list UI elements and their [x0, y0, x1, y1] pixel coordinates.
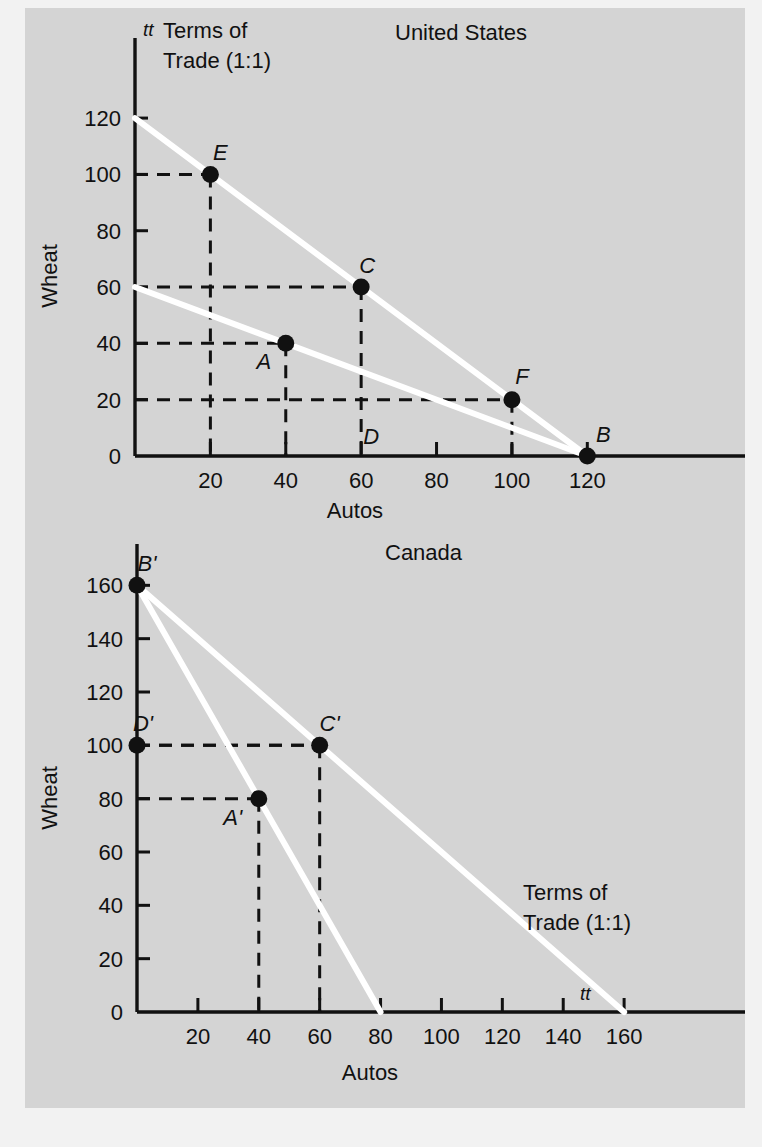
x-tick-label-united-states-100: 100	[494, 468, 531, 493]
y-tick-label-canada-20: 20	[99, 947, 123, 972]
chart-title-united-states: United States	[395, 20, 527, 45]
tt-label-united-states: tt	[143, 19, 154, 40]
datapoint-united-states-C	[353, 279, 370, 296]
x-tick-label-canada-40: 40	[247, 1024, 271, 1049]
y-tick-label-united-states-40: 40	[97, 331, 121, 356]
x-tick-label-united-states-80: 80	[424, 468, 448, 493]
x-tick-label-canada-20: 20	[186, 1024, 210, 1049]
y-axis-label-canada: Wheat	[37, 766, 62, 830]
terms-of-trade-line1-canada: Terms of	[523, 880, 608, 905]
chart-title-canada: Canada	[385, 540, 463, 565]
y-tick-label-canada-140: 140	[86, 627, 123, 652]
datapoint-canada-D'	[129, 737, 146, 754]
x-tick-label-canada-140: 140	[545, 1024, 582, 1049]
datapoint-united-states-E	[202, 166, 219, 183]
x-axis-label-canada: Autos	[342, 1060, 398, 1085]
y-tick-label-united-states-0: 0	[109, 444, 121, 469]
y-tick-label-canada-40: 40	[99, 893, 123, 918]
datapoint-united-states-B	[579, 448, 596, 465]
figure-panel: United StatesWheatAutos02040608010012020…	[25, 8, 745, 1108]
x-tick-label-united-states-60: 60	[349, 468, 373, 493]
point-label-united-states-B: B	[596, 422, 611, 447]
terms-of-trade-line2-united-states: Trade (1:1)	[163, 48, 271, 73]
y-axis-label-united-states: Wheat	[37, 244, 62, 308]
y-tick-label-united-states-80: 80	[97, 219, 121, 244]
point-label-united-states-F: F	[515, 364, 530, 389]
point-label-united-states-A: A	[254, 349, 271, 374]
x-tick-label-united-states-40: 40	[274, 468, 298, 493]
x-tick-label-canada-120: 120	[484, 1024, 521, 1049]
y-tick-label-canada-80: 80	[99, 787, 123, 812]
y-tick-label-canada-60: 60	[99, 840, 123, 865]
point-label-united-states-C: C	[359, 253, 375, 278]
point-label-canada-A': A'	[221, 805, 243, 830]
y-tick-label-united-states-60: 60	[97, 275, 121, 300]
y-tick-label-canada-100: 100	[86, 733, 123, 758]
x-tick-label-canada-160: 160	[606, 1024, 643, 1049]
x-tick-label-united-states-20: 20	[198, 468, 222, 493]
point-label-canada-C': C'	[320, 711, 341, 736]
x-tick-label-canada-100: 100	[423, 1024, 460, 1049]
y-tick-label-united-states-20: 20	[97, 388, 121, 413]
y-tick-label-canada-120: 120	[86, 680, 123, 705]
datapoint-canada-A'	[250, 790, 267, 807]
y-tick-label-united-states-120: 120	[84, 106, 121, 131]
x-tick-label-united-states-120: 120	[569, 468, 606, 493]
point-label-canada-D': D'	[133, 711, 154, 736]
y-tick-label-canada-0: 0	[111, 1000, 123, 1025]
terms-of-trade-line2-canada: Trade (1:1)	[523, 910, 631, 935]
point-label-united-states-D: D	[363, 424, 379, 449]
terms-of-trade-line1-united-states: Terms of	[163, 18, 248, 43]
x-tick-label-canada-80: 80	[368, 1024, 392, 1049]
x-axis-label-united-states: Autos	[327, 498, 383, 523]
chart-canada: CanadaWheatAutos020406080100120140160204…	[25, 528, 745, 1108]
datapoint-united-states-F	[503, 391, 520, 408]
y-tick-label-united-states-100: 100	[84, 162, 121, 187]
datapoint-canada-C'	[311, 737, 328, 754]
point-label-canada-B': B'	[138, 551, 158, 576]
datapoint-united-states-A	[277, 335, 294, 352]
y-tick-label-canada-160: 160	[86, 573, 123, 598]
point-label-united-states-E: E	[213, 140, 228, 165]
chart-united-states: United StatesWheatAutos02040608010012020…	[25, 8, 745, 528]
tt-label-canada: tt	[580, 983, 591, 1004]
x-tick-label-canada-60: 60	[307, 1024, 331, 1049]
datapoint-canada-B'	[129, 577, 146, 594]
